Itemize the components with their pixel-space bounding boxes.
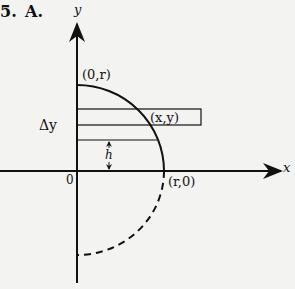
semicircle-diagram: [0, 0, 295, 289]
point-xy-label: (x,y): [150, 110, 179, 125]
x-axis-label: x: [283, 160, 290, 175]
origin-label: 0: [66, 173, 74, 187]
y-axis-label: y: [74, 2, 81, 17]
problem-letter: A.: [25, 2, 43, 21]
lower-dashed-arc: [77, 171, 164, 255]
problem-number: 5.: [0, 2, 17, 21]
h-label: h: [105, 148, 113, 162]
upper-arc: [77, 85, 164, 171]
delta-y-label: Δy: [39, 117, 57, 133]
point-top-label: (0,r): [82, 67, 111, 82]
point-right-label: (r,0): [168, 174, 195, 189]
